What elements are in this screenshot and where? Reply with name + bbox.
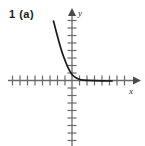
y-axis-label: y bbox=[77, 8, 82, 18]
x-axis-arrowhead bbox=[133, 77, 141, 85]
figure-container: 1 (a) bbox=[0, 0, 145, 146]
y-axis-arrowhead bbox=[68, 8, 76, 16]
coordinate-plot: y x bbox=[0, 0, 145, 146]
exponential-decay-curve bbox=[54, 21, 113, 81]
x-axis-label: x bbox=[128, 86, 133, 96]
